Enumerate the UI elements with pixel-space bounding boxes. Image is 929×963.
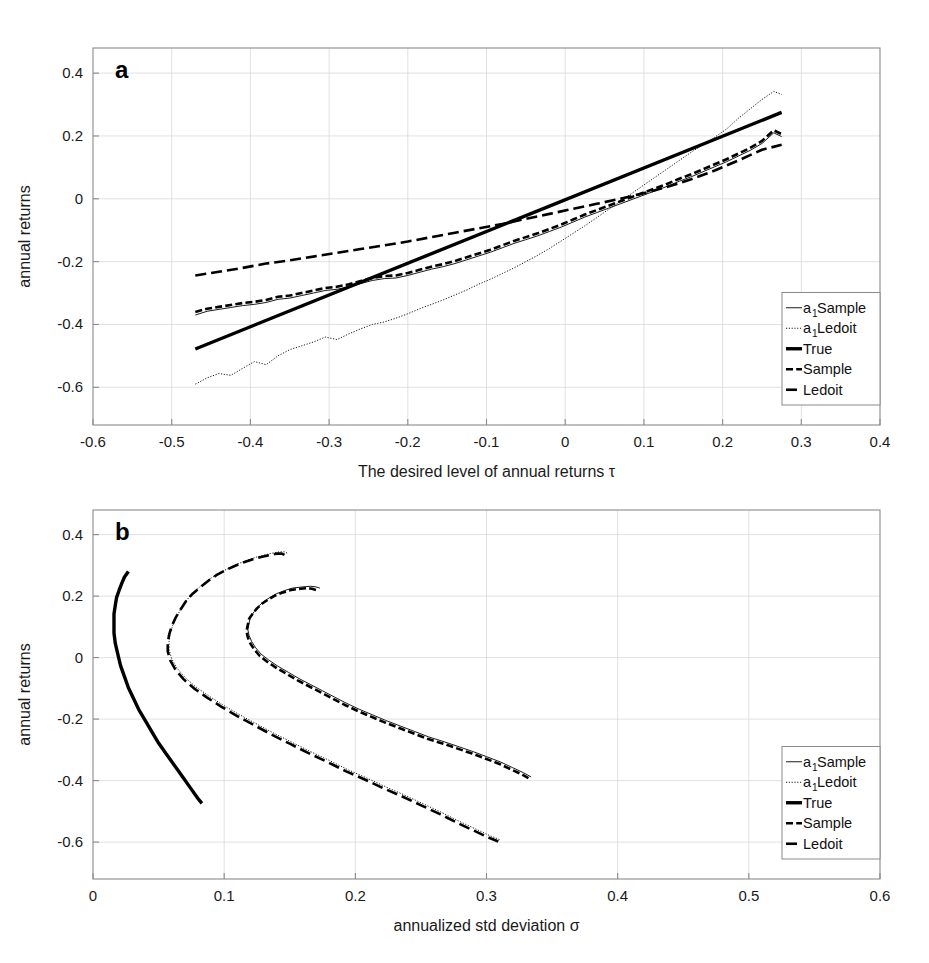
y-tick-label: 0.4: [62, 526, 83, 543]
legend-label-a1_ledoit: a: [803, 320, 812, 336]
legend-label-true: True: [803, 341, 832, 357]
legend-tail-a1_ledoit: Ledoit: [817, 320, 857, 336]
x-tick-label: 0.4: [870, 433, 891, 450]
series-line-sample: [195, 130, 781, 312]
legend-label-ledoit: Ledoit: [803, 836, 843, 852]
legend-label-sample: Sample: [803, 815, 852, 831]
series-line-a1-sample: [195, 133, 781, 315]
x-tick-label: 0.1: [214, 887, 235, 904]
y-tick-label: -0.4: [57, 315, 83, 332]
y-tick-label: -0.2: [57, 253, 83, 270]
x-tick-label: -0.4: [237, 433, 263, 450]
panel-letter-a: a: [115, 56, 129, 83]
x-tick-label: -0.2: [395, 433, 421, 450]
x-tick-label: 0.2: [345, 887, 366, 904]
legend-label-a1_sample: a: [803, 754, 812, 770]
ticks-b: 00.10.20.30.40.50.60.40.20-0.2-0.4-0.6: [57, 526, 890, 904]
series-line-true: [195, 112, 781, 349]
chart-svg-a: -0.6-0.5-0.4-0.3-0.2-0.100.10.20.30.40.4…: [0, 0, 929, 490]
gridlines-a: [93, 48, 880, 425]
x-tick-label: 0.2: [712, 433, 733, 450]
legend-label-a1_ledoit: a: [803, 774, 812, 790]
x-tick-label: -0.5: [159, 433, 185, 450]
series-line-a1-ledoit: [195, 91, 781, 384]
y-tick-label: 0: [75, 649, 83, 666]
series-group-b: [114, 552, 531, 842]
legend-b[interactable]: a1 Samplea1 LedoitTrueSampleLedoit: [782, 747, 880, 860]
x-tick-label: 0.4: [607, 887, 628, 904]
series-line-a1-ledoit: [169, 552, 500, 840]
y-axis-title-a: annual returns: [16, 185, 33, 287]
legend-label-ledoit: Ledoit: [803, 382, 843, 398]
figure-container: -0.6-0.5-0.4-0.3-0.2-0.100.10.20.30.40.4…: [0, 0, 929, 963]
x-axis-title-a: The desired level of annual returns τ: [358, 463, 616, 480]
gridlines-b: [93, 510, 880, 879]
x-tick-label: 0: [89, 887, 97, 904]
series-line-a1-sample: [248, 586, 531, 777]
x-tick-label: 0.6: [870, 887, 891, 904]
y-tick-label: -0.6: [57, 833, 83, 850]
chart-panel-b: 00.10.20.30.40.50.60.40.20-0.2-0.4-0.6an…: [0, 482, 929, 963]
x-tick-label: 0.3: [476, 887, 497, 904]
y-tick-label: -0.6: [57, 378, 83, 395]
series-group-a: [195, 91, 781, 384]
x-tick-label: -0.1: [474, 433, 500, 450]
legend-tail-a1_ledoit: Ledoit: [817, 774, 857, 790]
series-line-ledoit: [195, 145, 781, 276]
x-tick-label: 0.1: [633, 433, 654, 450]
legend-label-true: True: [803, 795, 832, 811]
y-tick-label: 0.2: [62, 127, 83, 144]
y-axis-title-b: annual returns: [16, 643, 33, 745]
x-tick-label: 0: [561, 433, 569, 450]
legend-tail-a1_sample: Sample: [817, 754, 866, 770]
chart-svg-b: 00.10.20.30.40.50.60.40.20-0.2-0.4-0.6an…: [0, 482, 929, 963]
panel-letter-b: b: [115, 518, 130, 545]
x-tick-label: 0.3: [791, 433, 812, 450]
chart-panel-a: -0.6-0.5-0.4-0.3-0.2-0.100.10.20.30.40.4…: [0, 0, 929, 490]
x-axis-title-b: annualized std deviation σ: [394, 917, 580, 934]
y-tick-label: 0: [75, 190, 83, 207]
legend-a[interactable]: a1 Samplea1 LedoitTrueSampleLedoit: [782, 293, 880, 406]
legend-label-a1_sample: a: [803, 300, 812, 316]
y-tick-label: -0.2: [57, 710, 83, 727]
y-tick-label: -0.4: [57, 772, 83, 789]
series-line-ledoit: [168, 554, 499, 842]
y-tick-label: 0.4: [62, 64, 83, 81]
y-tick-label: 0.2: [62, 587, 83, 604]
legend-tail-a1_sample: Sample: [817, 300, 866, 316]
x-tick-label: -0.3: [316, 433, 342, 450]
x-tick-label: -0.6: [80, 433, 106, 450]
x-tick-label: 0.5: [738, 887, 759, 904]
series-line-true: [114, 572, 202, 804]
legend-label-sample: Sample: [803, 361, 852, 377]
